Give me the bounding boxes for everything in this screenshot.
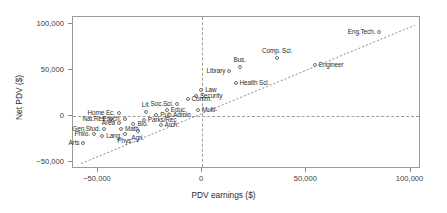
x-axis-tick <box>410 168 411 172</box>
y-axis-tick-label: −50,000 <box>36 156 64 165</box>
x-axis-tick-label: 0 <box>199 174 203 183</box>
data-point-label: Comm. <box>192 95 212 102</box>
data-point-label: Bio. <box>137 120 148 127</box>
y-axis-tick <box>68 69 72 70</box>
data-point-label: Math <box>125 125 139 132</box>
x-axis-tick-label: 100,000 <box>396 174 423 183</box>
y-axis-tick <box>68 115 72 116</box>
x-axis-tick <box>305 168 306 172</box>
data-point <box>159 123 163 127</box>
data-point-label: Area <box>102 119 115 126</box>
y-axis-tick <box>68 161 72 162</box>
data-point <box>117 121 121 125</box>
data-point-label: Bus. <box>234 56 246 63</box>
plot-area: Eng.Tech.EngineerComp. Sci.Bus.LibraryHe… <box>72 16 420 168</box>
data-point <box>227 69 231 73</box>
x-axis-tick <box>97 168 98 172</box>
data-point-label: Engineer <box>319 61 344 68</box>
data-point-label: Health Sci. <box>240 79 270 86</box>
data-point <box>186 97 190 101</box>
data-point-label: Lit. <box>142 101 150 108</box>
y-axis-tick-label: 50,000 <box>41 65 64 74</box>
data-point-label: Philo. <box>74 130 89 137</box>
data-point <box>234 81 238 85</box>
data-point <box>123 132 127 136</box>
y-axis-tick-label: 0 <box>60 110 64 119</box>
scatter-chart-figure: Eng.Tech.EngineerComp. Sci.Bus.LibraryHe… <box>0 0 447 213</box>
data-point <box>119 127 123 131</box>
x-axis-tick-label: −50,000 <box>83 174 111 183</box>
data-point <box>144 110 148 114</box>
data-point-label: Arts <box>68 139 79 146</box>
x-axis-tick <box>201 168 202 172</box>
x-axis-label: PDV earnings ($) <box>0 190 447 200</box>
data-point <box>92 132 96 136</box>
data-point <box>238 65 242 69</box>
data-point-label: Eng.Tech. <box>348 28 376 35</box>
trend-line <box>73 17 419 167</box>
data-point <box>275 56 279 60</box>
x-axis-tick-label: 50,000 <box>294 174 317 183</box>
data-point <box>196 108 200 112</box>
y-axis-tick-label: 100,000 <box>37 19 64 28</box>
data-point <box>100 134 104 138</box>
data-point <box>377 30 381 34</box>
data-point <box>175 102 179 106</box>
data-point <box>313 63 317 67</box>
y-axis-tick <box>68 23 72 24</box>
data-point <box>123 117 127 121</box>
data-point <box>102 127 106 131</box>
data-point-label: Multi- <box>202 106 217 113</box>
data-point-label: Agri. <box>131 134 144 141</box>
data-point-label: Library <box>206 67 225 74</box>
data-point-label: Lang. <box>106 132 122 139</box>
data-point <box>81 141 85 145</box>
y-axis-label: Net PDV ($) <box>14 75 24 120</box>
data-point-label: Comp. Sci. <box>262 47 292 54</box>
data-point-label: Arch. <box>165 121 179 128</box>
